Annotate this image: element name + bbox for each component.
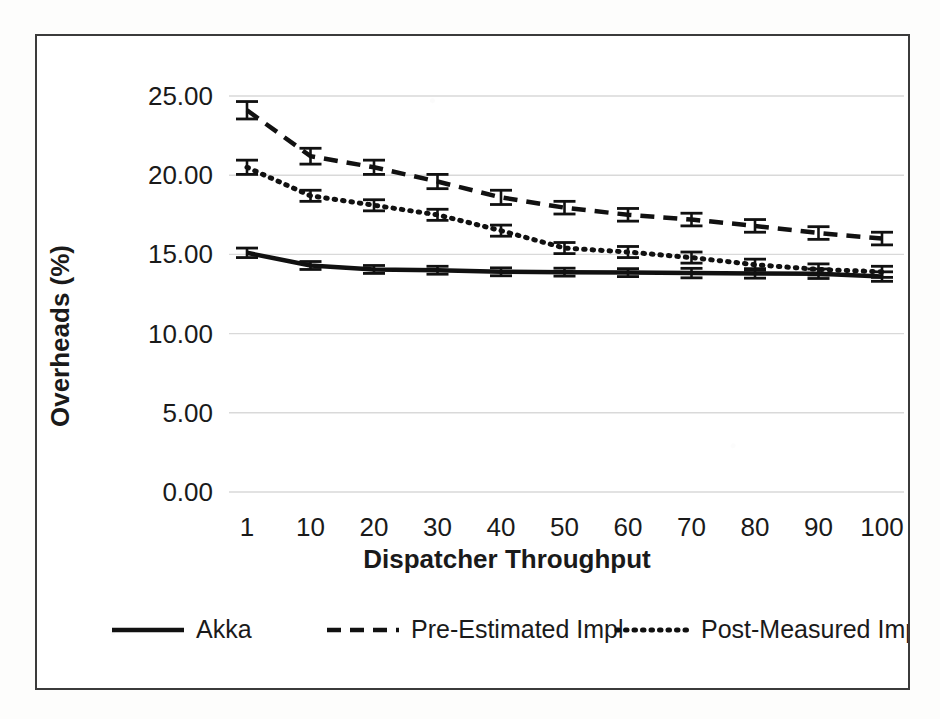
gridlines <box>229 96 904 492</box>
x-tick-label: 90 <box>804 512 833 542</box>
y-tick-label: 5.00 <box>162 398 213 428</box>
y-tick-label: 0.00 <box>162 477 213 507</box>
x-tick-label: 60 <box>614 512 643 542</box>
legend-label: Post-Measured Impl <box>701 615 908 643</box>
series-line <box>247 167 882 272</box>
y-tick-label: 15.00 <box>148 239 213 269</box>
legend-label: Pre-Estimated Impl <box>411 615 624 643</box>
x-tick-label: 30 <box>423 512 452 542</box>
figure-root: 0.005.0010.0015.0020.0025.00 11020304050… <box>0 0 940 719</box>
x-tick-label: 1 <box>240 512 254 542</box>
chart-frame: 0.005.0010.0015.0020.0025.00 11020304050… <box>35 34 910 690</box>
x-tick-label: 70 <box>677 512 706 542</box>
x-tick-label: 20 <box>360 512 389 542</box>
error-bar <box>300 148 322 164</box>
x-tick-label: 100 <box>860 512 903 542</box>
x-axis-title: Dispatcher Throughput <box>363 544 651 574</box>
x-tick-label: 80 <box>741 512 770 542</box>
x-tick-label: 40 <box>487 512 516 542</box>
y-tick-label: 25.00 <box>148 81 213 111</box>
y-tick-label: 10.00 <box>148 319 213 349</box>
series-line <box>247 110 882 238</box>
y-tick-label: 20.00 <box>148 160 213 190</box>
y-axis-title: Overheads (%) <box>45 245 75 427</box>
legend-label: Akka <box>196 615 252 643</box>
chart-legend: AkkaPre-Estimated ImplPost-Measured Impl <box>112 615 908 643</box>
x-tick-label: 10 <box>296 512 325 542</box>
line-chart: 0.005.0010.0015.0020.0025.00 11020304050… <box>37 36 908 688</box>
y-axis-tick-labels: 0.005.0010.0015.0020.0025.00 <box>148 81 213 507</box>
x-axis-tick-labels: 1102030405060708090100 <box>240 512 904 542</box>
x-tick-label: 50 <box>550 512 579 542</box>
